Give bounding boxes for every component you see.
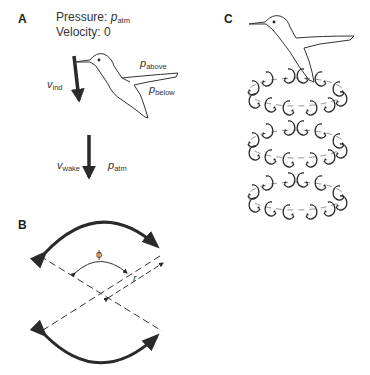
p-above-sub: above <box>146 62 166 71</box>
pressure-sub: atm <box>117 16 130 25</box>
v-ind-sub: ind <box>53 83 63 92</box>
bird-eye-icon <box>98 59 101 62</box>
p-below-sub: below <box>155 88 175 97</box>
v-wake-sub: wake <box>63 164 81 173</box>
stroke-arc-bottom <box>45 335 157 363</box>
p-above-label: pabove <box>140 58 167 71</box>
phi-label: ϕ <box>96 249 102 260</box>
vortex-rings <box>248 69 347 219</box>
p-atm-sub: atm <box>114 164 127 173</box>
panel-label-a: A <box>18 13 27 25</box>
angle-arc <box>75 262 127 274</box>
bird-eye-icon <box>273 21 276 24</box>
v-wake-label: vwake <box>57 160 80 173</box>
panel-label-b: B <box>18 219 27 231</box>
p-below-label: pbelow <box>149 84 175 97</box>
panel-b <box>40 222 163 363</box>
velocity-label: Velocity: 0 <box>56 26 111 38</box>
pressure-label: Pressure: patm <box>56 11 130 25</box>
hummingbird-icon <box>249 16 354 82</box>
figure-canvas <box>0 0 370 375</box>
v-ind-label: vind <box>47 79 63 92</box>
panel-a <box>74 54 178 177</box>
r-label: r <box>133 274 136 284</box>
panel-label-c: C <box>224 13 233 25</box>
induced-velocity-arrow <box>74 56 79 100</box>
pressure-prefix: Pressure: <box>56 10 111 24</box>
panel-c <box>248 16 354 219</box>
dashed-wing-line-2 <box>40 256 160 332</box>
p-atm-label: patm <box>108 160 127 173</box>
